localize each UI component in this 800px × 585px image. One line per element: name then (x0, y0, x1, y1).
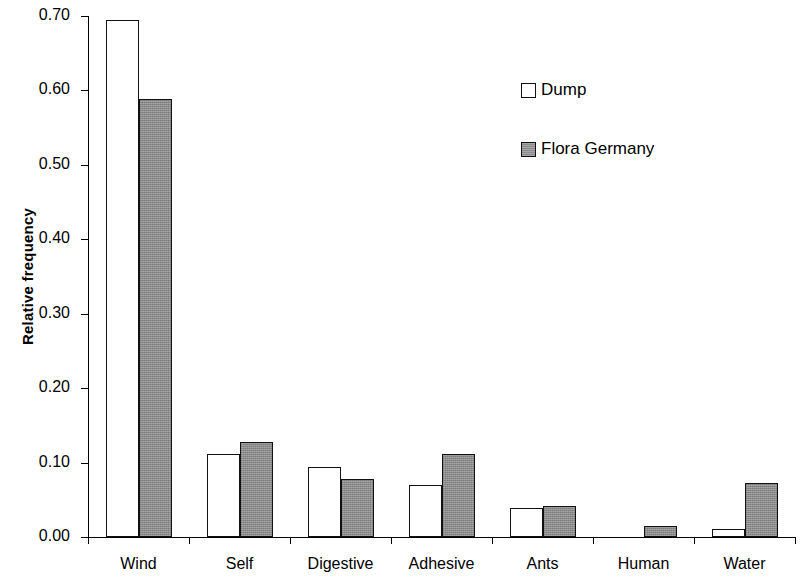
x-tick (694, 537, 695, 544)
bar-water-flora-germany (745, 483, 778, 537)
bar-ants-flora-germany (543, 506, 576, 537)
bar-wind-flora-germany (139, 99, 172, 537)
x-tick (391, 537, 392, 544)
bar-ants-dump (510, 508, 543, 537)
y-tick-label: 0.40 (10, 229, 70, 247)
x-tick (88, 537, 89, 544)
x-tick-label: Human (593, 555, 694, 573)
x-tick (795, 537, 796, 544)
y-tick-label: 0.20 (10, 378, 70, 396)
hollow-square-icon (521, 83, 536, 98)
bar-adhesive-dump (409, 485, 442, 537)
y-tick (81, 239, 88, 240)
y-tick (81, 388, 88, 389)
x-axis-line (88, 537, 795, 538)
y-tick-label: 0.60 (10, 80, 70, 98)
bar-adhesive-flora-germany (442, 454, 475, 537)
filled-square-icon (521, 142, 536, 157)
y-tick-label: 0.70 (10, 6, 70, 24)
y-tick (81, 165, 88, 166)
legend-item-dump: Dump (521, 80, 654, 100)
x-tick-label: Wind (88, 555, 189, 573)
chart-legend: Dump Flora Germany (521, 80, 654, 198)
y-tick (81, 314, 88, 315)
plot-area: 0.000.100.200.300.400.500.600.70 (88, 16, 795, 537)
x-tick (189, 537, 190, 544)
bar-digestive-dump (308, 467, 341, 537)
y-axis-line (88, 16, 89, 537)
y-tick (81, 537, 88, 538)
x-tick-label: Digestive (290, 555, 391, 573)
y-tick-label: 0.00 (10, 527, 70, 545)
y-tick (81, 463, 88, 464)
x-tick-label: Adhesive (391, 555, 492, 573)
y-tick-label: 0.50 (10, 155, 70, 173)
bar-human-flora-germany (644, 526, 677, 537)
x-tick-label: Water (694, 555, 795, 573)
legend-item-flora-germany: Flora Germany (521, 139, 654, 159)
bar-self-flora-germany (240, 442, 273, 537)
bar-chart: Relative frequency 0.000.100.200.300.400… (0, 0, 800, 585)
y-tick-label: 0.10 (10, 453, 70, 471)
y-tick (81, 16, 88, 17)
x-tick-label: Self (189, 555, 290, 573)
legend-label-dump: Dump (541, 80, 586, 100)
bar-self-dump (207, 454, 240, 537)
x-tick-label: Ants (492, 555, 593, 573)
y-tick (81, 90, 88, 91)
x-tick (492, 537, 493, 544)
x-tick (593, 537, 594, 544)
bar-wind-dump (106, 20, 139, 537)
bar-water-dump (712, 529, 745, 537)
legend-label-flora-germany: Flora Germany (541, 139, 654, 159)
bar-digestive-flora-germany (341, 479, 374, 537)
y-axis-label: Relative frequency (19, 162, 36, 392)
y-tick-label: 0.30 (10, 304, 70, 322)
x-tick (290, 537, 291, 544)
